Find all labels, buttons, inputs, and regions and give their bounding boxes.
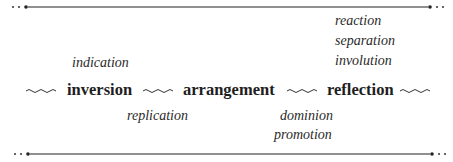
- top-ornamental-rule: [0, 4, 453, 10]
- word-replication: replication: [127, 108, 188, 124]
- node-arrangement: arrangement: [183, 80, 275, 100]
- word-promotion: promotion: [274, 127, 332, 143]
- word-indication: indication: [72, 55, 129, 71]
- node-reflection: reflection: [327, 80, 394, 100]
- word-separation: separation: [335, 33, 395, 49]
- word-reaction: reaction: [335, 13, 381, 29]
- wave-connector-1: [142, 87, 176, 95]
- word-involution: involution: [335, 53, 392, 69]
- node-inversion: inversion: [67, 80, 132, 100]
- wave-connector-left: [25, 87, 59, 95]
- wave-connector-2: [286, 87, 320, 95]
- word-dominion: dominion: [280, 108, 333, 124]
- wave-connector-right: [399, 87, 433, 95]
- bottom-ornamental-rule: [0, 151, 453, 157]
